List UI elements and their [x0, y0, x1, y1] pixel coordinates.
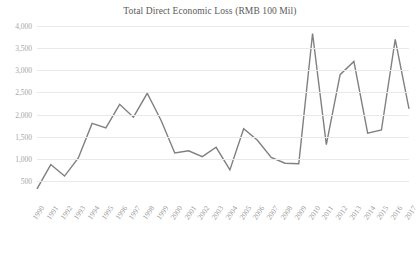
- gridline: [37, 92, 409, 93]
- y-axis-tick-label: 3,000: [15, 66, 32, 75]
- gridline: [37, 181, 409, 182]
- gridline: [37, 48, 409, 49]
- gridline: [37, 70, 409, 71]
- gridline: [37, 159, 409, 160]
- y-axis-tick-label: 1,000: [15, 154, 32, 163]
- y-axis-tick-label: 2,000: [15, 110, 32, 119]
- gridline: [37, 26, 409, 27]
- y-axis: 5001,0001,5002,0002,5003,0003,5004,000: [0, 26, 35, 192]
- y-axis-tick-label: 1,500: [15, 132, 32, 141]
- plot-area: [37, 26, 409, 192]
- y-axis-tick-label: 500: [21, 176, 32, 185]
- y-axis-tick-label: 3,500: [15, 44, 32, 53]
- series-polyline: [37, 34, 409, 189]
- chart-title: Total Direct Economic Loss (RMB 100 Mil): [0, 6, 420, 16]
- y-axis-tick-label: 2,500: [15, 88, 32, 97]
- gridline: [37, 115, 409, 116]
- y-axis-tick-label: 4,000: [15, 22, 32, 31]
- chart-container: Total Direct Economic Loss (RMB 100 Mil)…: [0, 0, 420, 255]
- gridline: [37, 137, 409, 138]
- x-axis: 1990199119921993199419951996199719981999…: [37, 192, 409, 252]
- line-series: [37, 26, 409, 192]
